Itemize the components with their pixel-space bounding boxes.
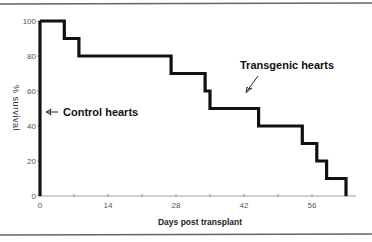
y-tick-label: 100	[23, 17, 37, 26]
x-axis: 014284256	[38, 194, 356, 210]
y-tick-label: 0	[32, 192, 37, 201]
survival-chart: 020406080100 014284256 % survival Days p…	[0, 0, 372, 242]
x-tick-label: 42	[240, 201, 249, 210]
y-tick-label: 60	[27, 87, 36, 96]
y-tick-label: 40	[27, 122, 36, 131]
x-axis-title: Days post transplant	[158, 217, 242, 227]
y-tick-label: 80	[27, 52, 36, 61]
transgenic-hearts-label: Transgenic hearts	[240, 59, 334, 71]
control-annotation: Control hearts	[46, 106, 138, 118]
transgenic-annotation: Transgenic hearts	[240, 59, 334, 93]
y-axis-title: % survival	[11, 85, 21, 131]
x-tick-label: 0	[38, 201, 43, 210]
x-tick-label: 28	[172, 201, 181, 210]
control-hearts-label: Control hearts	[63, 106, 138, 118]
x-tick-label: 14	[104, 201, 113, 210]
bottom-border	[0, 234, 372, 235]
y-axis: 020406080100	[23, 17, 40, 201]
x-tick-label: 56	[308, 201, 317, 210]
top-border	[0, 3, 372, 4]
y-tick-label: 20	[27, 157, 36, 166]
